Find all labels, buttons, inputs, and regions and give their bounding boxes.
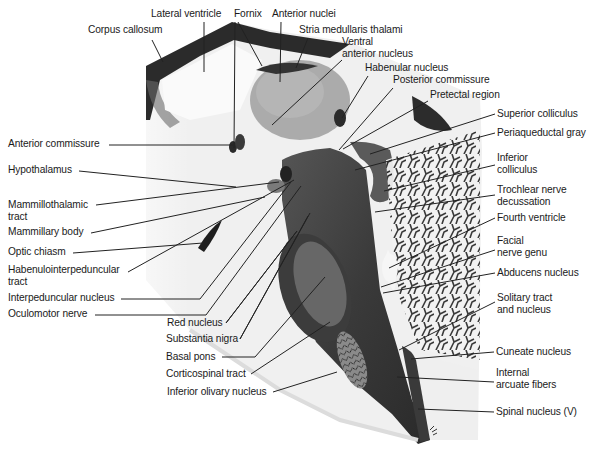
- label-pretectal-region: Pretectal region: [430, 89, 500, 101]
- label-periaqueductal-gray: Periaqueductal gray: [497, 127, 586, 139]
- label-mammillothalamic-tract: Mammillothalamic tract: [8, 199, 88, 223]
- anatomical-figure: Lateral ventricleCorpus callosumFornixAn…: [0, 0, 593, 461]
- label-lateral-ventricle: Lateral ventricle: [151, 8, 221, 20]
- label-corticospinal-tract: Corticospinal tract: [166, 368, 246, 380]
- label-solitary-tract-and-nucleus: Solitary tract and nucleus: [497, 292, 552, 316]
- label-internal-arcuate-fibers: Internal arcuate fibers: [496, 367, 556, 391]
- label-cuneate-nucleus: Cuneate nucleus: [496, 346, 571, 358]
- label-ventral-anterior-nucleus: Ventral anterior nucleus: [342, 36, 413, 60]
- label-facial-nerve-genu: Facial nerve genu: [497, 235, 547, 259]
- label-interpeduncular-nucleus: Interpeduncular nucleus: [8, 292, 114, 304]
- label-habenular-nucleus: Habenular nucleus: [365, 62, 448, 74]
- label-hypothalamus: Hypothalamus: [8, 164, 72, 176]
- label-inferior-colliculus: Inferior colliculus: [497, 152, 537, 176]
- label-superior-colliculus: Superior colliculus: [497, 108, 578, 120]
- label-fornix: Fornix: [234, 8, 262, 20]
- label-trochlear-nerve-decussation: Trochlear nerve decussation: [497, 184, 566, 208]
- brain-section-image: [0, 0, 593, 461]
- label-stria-medullaris-thalami: Stria medullaris thalami: [299, 24, 402, 36]
- label-fourth-ventricle: Fourth ventricle: [497, 212, 566, 224]
- leader-line-corpus-callosum: [152, 40, 163, 62]
- label-mammillary-body: Mammillary body: [8, 226, 84, 238]
- label-abducens-nucleus: Abducens nucleus: [497, 267, 579, 279]
- label-inferior-olivary-nucleus: Inferior olivary nucleus: [167, 386, 267, 398]
- label-optic-chiasm: Optic chiasm: [8, 246, 66, 258]
- label-anterior-nuclei: Anterior nuclei: [272, 8, 336, 20]
- label-red-nucleus: Red nucleus: [167, 317, 223, 329]
- label-habenulointerpeduncular-tract: Habenulointerpeduncular tract: [8, 264, 120, 288]
- label-substantia-nigra: Substantia nigra: [166, 333, 238, 345]
- label-oculomotor-nerve: Oculomotor nerve: [8, 308, 87, 320]
- label-posterior-commissure: Posterior commissure: [393, 74, 490, 86]
- label-basal-pons: Basal pons: [166, 351, 215, 363]
- label-anterior-commissure: Anterior commissure: [8, 138, 100, 150]
- label-spinal-nucleus-v: Spinal nucleus (V): [496, 406, 577, 418]
- label-corpus-callosum: Corpus callosum: [88, 24, 162, 36]
